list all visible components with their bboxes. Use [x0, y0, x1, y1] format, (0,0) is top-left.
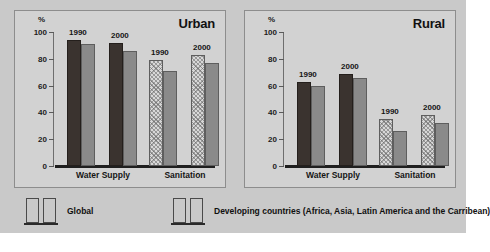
y-tick-100 [279, 32, 284, 33]
legend-swatch-global-hatched [43, 198, 56, 223]
y-tick-label-100: 100 [34, 28, 47, 37]
y-tick-label-0: 0 [43, 162, 47, 171]
y-tick-80 [279, 59, 284, 60]
chart-figure: % Urban 100 80 60 40 20 0 [0, 0, 466, 233]
bar-global-2000 [421, 115, 435, 166]
bar-developing-2000 [353, 78, 367, 166]
year-label-1990: 1990 [151, 48, 169, 57]
bar-pair-1990: 1990 [297, 32, 325, 166]
y-tick-80 [49, 59, 54, 60]
year-label-1990: 1990 [69, 28, 87, 37]
bar-developing-1990 [311, 86, 325, 166]
y-tick-20 [49, 139, 54, 140]
panel-title-rural: Rural [413, 16, 445, 31]
category-label-sanitation: Sanitation [379, 170, 451, 180]
y-tick-label-60: 60 [268, 81, 277, 90]
bar-group-water-supply: 1990 2000 Water Supply [297, 32, 369, 166]
year-label-2000: 2000 [341, 62, 359, 71]
legend-swatch-developing-solid [173, 198, 186, 223]
bar-pair-2000: 2000 [339, 32, 367, 166]
bar-developing-1990 [163, 71, 177, 166]
bar-group-sanitation: 1990 2000 Sanitation [149, 32, 221, 166]
bar-pair-1990: 1990 [149, 32, 177, 166]
year-label-1990: 1990 [381, 107, 399, 116]
bar-pair-2000: 2000 [421, 32, 449, 166]
y-tick-label-40: 40 [268, 108, 277, 117]
legend-entry-global: Global [26, 198, 93, 223]
y-tick-40 [49, 112, 54, 113]
legend-entry-developing: Developing countries (Africa, Asia, Lati… [173, 198, 490, 223]
y-tick-label-20: 20 [268, 135, 277, 144]
bar-developing-1990 [393, 131, 407, 166]
year-label-2000: 2000 [111, 31, 129, 40]
bar-global-1990 [67, 40, 81, 166]
y-tick-label-80: 80 [38, 54, 47, 63]
y-tick-60 [279, 86, 284, 87]
bar-group-bars: 1990 2000 [297, 32, 369, 166]
y-tick-100 [49, 32, 54, 33]
bar-pair-1990: 1990 [379, 32, 407, 166]
panel-title-urban: Urban [178, 16, 215, 31]
bar-global-1990 [149, 60, 163, 166]
y-axis-line [283, 32, 284, 166]
category-label-water-supply: Water Supply [297, 170, 369, 180]
category-label-sanitation: Sanitation [149, 170, 221, 180]
year-label-2000: 2000 [423, 103, 441, 112]
bar-group-sanitation: 1990 2000 Sanitation [379, 32, 451, 166]
legend-swatches-global [26, 198, 60, 223]
legend-swatch-global-solid [26, 198, 39, 223]
panel-urban: % Urban 100 80 60 40 20 0 [14, 10, 226, 188]
chart-legend: Global Developing countries (Africa, Asi… [0, 190, 466, 233]
bar-developing-2000 [123, 51, 137, 166]
bar-global-2000 [339, 74, 353, 166]
y-tick-40 [279, 112, 284, 113]
y-axis-unit-label: % [38, 15, 45, 24]
y-axis-line [53, 32, 54, 166]
y-tick-label-40: 40 [38, 108, 47, 117]
bar-global-1990 [297, 82, 311, 166]
bar-group-bars: 1990 2000 [379, 32, 451, 166]
year-label-2000: 2000 [193, 43, 211, 52]
y-tick-label-100: 100 [264, 28, 277, 37]
bar-pair-2000: 2000 [109, 32, 137, 166]
bar-developing-2000 [435, 123, 449, 166]
bar-global-1990 [379, 119, 393, 166]
y-tick-0 [279, 166, 284, 167]
legend-swatch-developing-hatched [190, 198, 203, 223]
legend-label-developing: Developing countries (Africa, Asia, Lati… [214, 206, 490, 216]
plot-area-rural: 100 80 60 40 20 0 1990 [283, 32, 447, 166]
bar-pair-1990: 1990 [67, 32, 95, 166]
bar-developing-1990 [81, 44, 95, 166]
bar-global-2000 [191, 55, 205, 166]
year-label-1990: 1990 [299, 70, 317, 79]
category-label-water-supply: Water Supply [67, 170, 139, 180]
panel-rural: % Rural 100 80 60 40 20 0 [244, 10, 456, 188]
plot-area-urban: 100 80 60 40 20 0 1990 [53, 32, 217, 166]
bar-group-bars: 1990 2000 [149, 32, 221, 166]
y-tick-label-60: 60 [38, 81, 47, 90]
bar-pair-2000: 2000 [191, 32, 219, 166]
y-tick-label-80: 80 [268, 54, 277, 63]
y-tick-60 [49, 86, 54, 87]
bar-group-bars: 1990 2000 [67, 32, 139, 166]
bar-developing-2000 [205, 63, 219, 166]
y-tick-label-20: 20 [38, 135, 47, 144]
y-tick-label-0: 0 [273, 162, 277, 171]
chart-panels: % Urban 100 80 60 40 20 0 [0, 0, 466, 190]
legend-swatches-developing [173, 198, 207, 223]
bar-group-water-supply: 1990 2000 Water Supply [67, 32, 139, 166]
y-tick-0 [49, 166, 54, 167]
bar-global-2000 [109, 43, 123, 166]
y-axis-unit-label: % [268, 15, 275, 24]
legend-label-global: Global [67, 206, 93, 216]
y-tick-20 [279, 139, 284, 140]
